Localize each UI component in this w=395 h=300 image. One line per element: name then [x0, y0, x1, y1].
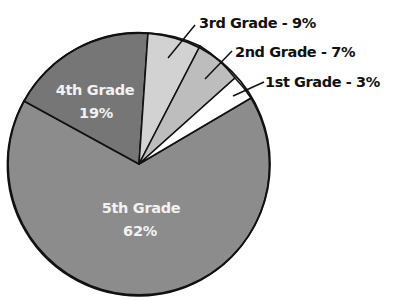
- label-5th-grade-name: 5th Grade: [102, 200, 181, 216]
- label-4th-grade-value: 19%: [79, 105, 114, 121]
- label-2nd-grade: 2nd Grade - 7%: [235, 44, 356, 60]
- pie-chart: 4th Grade 19% 5th Grade 62% 3rd Grade - …: [0, 0, 395, 300]
- label-1st-grade: 1st Grade - 3%: [265, 74, 381, 90]
- label-4th-grade-name: 4th Grade: [56, 82, 135, 98]
- label-5th-grade-value: 62%: [123, 223, 158, 239]
- label-3rd-grade: 3rd Grade - 9%: [199, 15, 317, 31]
